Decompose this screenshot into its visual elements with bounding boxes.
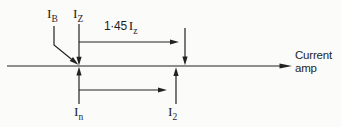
label-iz: IZ: [73, 7, 83, 24]
label-iz-sub: Z: [78, 14, 84, 24]
label-145iz-symbol: Iz: [129, 18, 138, 33]
label-ib: IB: [47, 7, 58, 24]
current-relationship-diagram: IB IZ 1·45Iz In I2 Current amp: [0, 0, 341, 127]
ib-arrow-line: [54, 26, 72, 59]
label-ib-sub: B: [52, 14, 58, 24]
label-i2-sub: 2: [173, 112, 178, 122]
label-in-sub: n: [79, 112, 84, 122]
dim-145iz-arrowhead-icon: [170, 40, 179, 45]
in-arrowhead-icon: [76, 67, 81, 76]
axis-title-line1: Current: [295, 49, 332, 62]
current-axis-arrowhead-icon: [280, 64, 293, 69]
axis-title-line2: amp: [295, 62, 332, 75]
label-145iz-sub: z: [133, 26, 137, 36]
label-145iz: 1·45Iz: [104, 17, 138, 36]
dim-i2-arrowhead-icon: [158, 88, 167, 93]
label-145iz-factor: 1·45: [104, 19, 127, 33]
marker-145iz-arrowhead-icon: [182, 57, 187, 66]
label-in: In: [74, 105, 83, 122]
label-i2: I2: [168, 105, 177, 122]
axis-title: Current amp: [295, 49, 332, 74]
i2-arrowhead-icon: [173, 67, 178, 76]
